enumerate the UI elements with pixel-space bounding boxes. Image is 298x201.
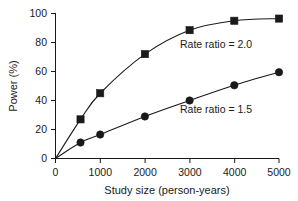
data-point-marker xyxy=(77,139,84,146)
data-point-marker xyxy=(97,90,104,97)
data-point-marker xyxy=(231,82,238,89)
y-tick-label-20: 20 xyxy=(35,123,47,135)
annotation-rate-ratio-1-5: Rate ratio = 1.5 xyxy=(180,103,252,115)
data-point-marker xyxy=(186,27,193,34)
annotation-rate-ratio-2: Rate ratio = 2.0 xyxy=(180,38,252,50)
x-axis-tick-labels: 0 1000 2000 3000 4000 5000 xyxy=(53,166,291,178)
x-tick-label-0: 0 xyxy=(53,166,59,178)
y-tick-label-100: 100 xyxy=(29,7,47,19)
data-point-marker xyxy=(275,69,282,76)
data-point-marker xyxy=(275,15,282,22)
x-tick-label-5000: 5000 xyxy=(267,166,291,178)
x-tick-label-2000: 2000 xyxy=(133,166,157,178)
chart-canvas: 0 20 40 60 80 100 0 1000 2000 3000 4000 … xyxy=(0,0,298,201)
y-tick-label-80: 80 xyxy=(35,36,47,48)
data-point-marker xyxy=(141,113,148,120)
y-tick-label-60: 60 xyxy=(35,65,47,77)
x-tick-label-1000: 1000 xyxy=(89,166,113,178)
series-line-rate-ratio-1-5 xyxy=(56,72,280,158)
power-curve-figure: 0 20 40 60 80 100 0 1000 2000 3000 4000 … xyxy=(0,0,298,201)
x-axis-ticks xyxy=(56,159,280,164)
x-axis-title: Study size (person-years) xyxy=(104,184,229,196)
y-axis-title: Power (%) xyxy=(7,60,19,111)
x-tick-label-3000: 3000 xyxy=(178,166,202,178)
y-axis-tick-labels: 0 20 40 60 80 100 xyxy=(29,7,47,164)
data-point-marker xyxy=(141,51,148,58)
data-point-marker xyxy=(97,131,104,138)
data-point-marker xyxy=(77,116,84,123)
y-tick-label-40: 40 xyxy=(35,94,47,106)
data-point-marker xyxy=(231,17,238,24)
y-axis-ticks xyxy=(51,14,56,159)
x-tick-label-4000: 4000 xyxy=(223,166,247,178)
y-tick-label-0: 0 xyxy=(41,152,47,164)
